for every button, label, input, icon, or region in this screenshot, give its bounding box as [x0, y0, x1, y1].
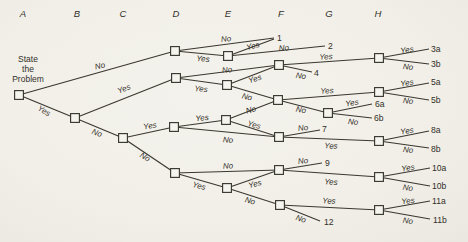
start-label-line-1: State: [18, 54, 38, 64]
edge-label-no: No: [223, 161, 234, 170]
decision-node-H11: [375, 206, 384, 215]
edge-label-no: No: [402, 183, 414, 193]
outcome-8a: 8a: [431, 125, 441, 135]
edge-label-yes: Yes: [194, 84, 208, 94]
outcome-11b: 11b: [433, 215, 447, 225]
edge-label-no: No: [295, 105, 307, 116]
start-label-line-3: Problem: [12, 74, 44, 84]
outcome-8b: 8b: [431, 144, 441, 154]
decision-node-B: [71, 114, 80, 123]
edge-label-no: No: [138, 150, 152, 163]
edge-label-yes: Yes: [324, 141, 338, 150]
edge-label-no: No: [245, 104, 258, 116]
decision-node-D2: [172, 74, 181, 83]
decision-node-E5: [223, 184, 232, 193]
edge-F11-H11: [280, 205, 379, 210]
column-header-F: F: [278, 8, 285, 19]
edge-label-no: No: [221, 65, 233, 75]
decision-node-C: [119, 134, 128, 143]
decision-node-E2: [223, 81, 232, 90]
outcome-10a: 10a: [432, 163, 447, 173]
outcome-3b: 3b: [431, 59, 441, 69]
column-header-D: D: [173, 8, 180, 19]
decision-node-D5: [171, 169, 180, 178]
decision-node-F11: [276, 201, 285, 210]
decision-node-F7: [275, 133, 284, 142]
decision-node-H10: [375, 173, 384, 182]
decision-node-F3: [275, 61, 284, 70]
edge-label-yes: Yes: [246, 119, 261, 131]
edge-label-no: No: [244, 195, 257, 206]
outcome-11a: 11a: [432, 196, 446, 206]
outcome-1: 1: [277, 33, 282, 43]
column-header-E: E: [225, 8, 232, 19]
edge-label-yes: Yes: [36, 104, 52, 118]
edge-label-yes: Yes: [324, 177, 338, 187]
edge-label-no: No: [295, 213, 308, 225]
edge-label-no: No: [94, 60, 107, 71]
decision-node-G6: [324, 109, 333, 118]
edge-label-yes: Yes: [196, 54, 210, 64]
edge-label-no: No: [297, 123, 309, 133]
edge-label-no: No: [220, 34, 232, 44]
decision-node-H3: [375, 54, 384, 63]
edge-A-D1: [19, 51, 175, 95]
edge-label-yes: Yes: [400, 45, 414, 56]
outcome-5b: 5b: [431, 95, 441, 105]
edge-label-no: No: [403, 62, 415, 72]
decision-node-E1: [224, 52, 233, 61]
edge-label-yes: Yes: [345, 98, 359, 109]
outcome-6a: 6a: [375, 99, 385, 109]
outcome-9: 9: [325, 158, 330, 168]
edge-label-yes: Yes: [320, 86, 334, 96]
edge-label-no: No: [402, 216, 414, 226]
decision-tree-svg: NoYesYesNoYesNoNoYesYesNoNoYesYesNoYesNo…: [0, 0, 468, 242]
column-header-B: B: [74, 8, 81, 19]
column-header-G: G: [325, 8, 332, 19]
edge-label-yes: Yes: [400, 78, 414, 89]
edge-label-no: No: [279, 43, 291, 53]
outcome-4: 4: [314, 68, 319, 78]
outcome-7: 7: [322, 124, 327, 134]
edge-label-yes: Yes: [401, 196, 415, 207]
edge-label-yes: Yes: [116, 82, 132, 95]
start-label-line-2: the: [22, 64, 34, 74]
decision-node-H5: [375, 88, 384, 97]
edge-F7-H8: [279, 137, 379, 141]
outcome-12: 12: [324, 217, 334, 227]
edge-label-yes: Yes: [322, 196, 336, 205]
outcome-10b: 10b: [432, 181, 447, 191]
edge-label-no: No: [297, 156, 309, 166]
column-header-C: C: [120, 8, 127, 19]
edge-label-yes: Yes: [247, 73, 262, 86]
edge-label-no: No: [241, 91, 254, 102]
outcome-5a: 5a: [431, 77, 441, 87]
edge-label-no: No: [223, 135, 234, 145]
edge-label-no: No: [295, 71, 307, 82]
column-header-H: H: [375, 8, 382, 19]
edge-label-no: No: [347, 117, 359, 127]
edge-label-yes: Yes: [401, 163, 415, 174]
edge-label-yes: Yes: [319, 52, 333, 62]
edge-label-yes: Yes: [195, 113, 209, 123]
decision-node-F9: [275, 166, 284, 175]
edge-label-no: No: [402, 96, 414, 106]
decision-node-A: [15, 91, 24, 100]
outcome-3a: 3a: [431, 44, 441, 54]
edge-F9-H10: [279, 170, 379, 177]
column-header-A: A: [19, 8, 26, 19]
outcome-2: 2: [328, 41, 333, 51]
edge-E2-F6: [227, 85, 278, 100]
edge-label-yes: Yes: [143, 120, 158, 131]
decision-node-D4: [170, 123, 179, 132]
decision-node-F6: [274, 96, 283, 105]
decision-tree-diagram: NoYesYesNoYesNoNoYesYesNoNoYesYesNoYesNo…: [0, 0, 468, 242]
decision-node-D1: [171, 47, 180, 56]
decision-node-H8: [375, 137, 384, 146]
outcome-6b: 6b: [374, 113, 384, 123]
decision-node-E4: [222, 116, 231, 125]
edge-label-no: No: [402, 145, 414, 155]
